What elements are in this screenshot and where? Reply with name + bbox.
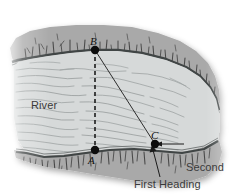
point-marker-b [91,46,99,54]
river-survey-diagram: B A C River Second Heading First Heading [0,0,251,196]
point-label-a: A [88,155,95,166]
point-marker-a [91,146,99,154]
river-label: River [31,99,57,111]
point-label-c: C [151,130,158,141]
second-heading-label-line1: Second [186,161,228,173]
point-marker-c [151,140,159,148]
first-heading-label: First Heading [134,178,201,190]
point-label-b: B [90,36,97,47]
